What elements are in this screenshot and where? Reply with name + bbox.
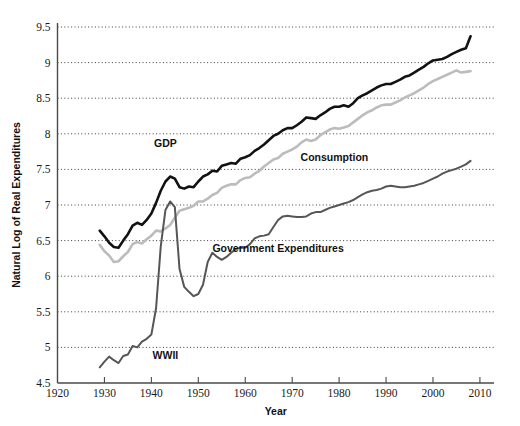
y-tick-label: 8 [45, 128, 51, 140]
x-axis-title: Year [265, 405, 287, 417]
y-axis-title: Natural Log of Real Expenditures [10, 122, 22, 288]
annotation-government-expenditures: Government Expenditures [212, 242, 343, 254]
chart-page: 4.555.566.577.588.599.5 1920193019401950… [0, 0, 520, 426]
series-line-consumption [100, 70, 471, 262]
y-tick-label: 9 [45, 57, 51, 69]
x-tick-label: 1950 [187, 387, 210, 399]
x-tick-label: 2010 [468, 387, 491, 399]
annotation-wwii: WWII [153, 349, 179, 361]
data-series-group [100, 36, 471, 367]
x-tick-label: 1920 [46, 387, 69, 399]
x-tick-label: 1980 [328, 387, 351, 399]
x-tick-label: 1940 [140, 387, 163, 399]
series-line-government-expenditures [100, 161, 471, 367]
x-tick-label: 1960 [234, 387, 257, 399]
x-tick-label: 2000 [421, 387, 444, 399]
y-tick-label: 6.5 [36, 235, 51, 247]
axes-group [58, 23, 495, 383]
x-tick-label: 1990 [375, 387, 398, 399]
x-tick-label-group: 1920193019401950196019701980199020002010 [46, 387, 492, 399]
y-tick-label: 9.5 [36, 21, 51, 33]
line-chart: 4.555.566.577.588.599.5 1920193019401950… [0, 0, 520, 426]
y-tick-label: 5 [45, 341, 51, 353]
y-tick-label-group: 4.555.566.577.588.599.5 [36, 21, 51, 389]
y-tick-label: 8.5 [36, 92, 51, 104]
x-tick-label: 1970 [281, 387, 304, 399]
annotation-gdp: GDP [154, 137, 177, 149]
y-tick-label: 5.5 [36, 306, 51, 318]
annotation-consumption: Consumption [301, 151, 369, 163]
x-tick-group [104, 377, 479, 383]
gridlines-group [58, 27, 495, 347]
y-tick-label: 6 [45, 270, 51, 282]
y-tick-label: 7 [45, 199, 51, 211]
y-tick-label: 7.5 [36, 163, 51, 175]
x-tick-label: 1930 [93, 387, 116, 399]
